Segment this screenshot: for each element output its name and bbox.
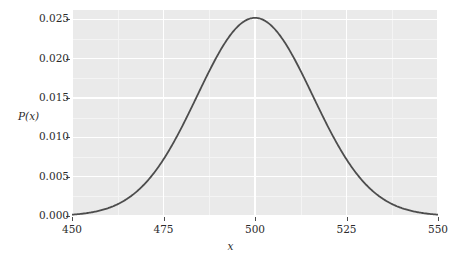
x-axis-tick bbox=[438, 217, 439, 221]
y-axis-tick-label: 0.025 bbox=[23, 12, 69, 24]
x-axis-tick-label: 500 bbox=[233, 223, 277, 235]
x-axis-label: x bbox=[0, 240, 461, 252]
y-axis-tick-label: 0.005 bbox=[23, 170, 69, 182]
gaussian-curve bbox=[72, 10, 438, 216]
x-axis-tick bbox=[72, 217, 73, 221]
x-axis-tick bbox=[347, 217, 348, 221]
y-axis-tick-label: 0.020 bbox=[23, 52, 69, 64]
y-axis-tick-label: 0.015 bbox=[23, 91, 69, 103]
y-axis-label: P(x) bbox=[18, 110, 39, 122]
x-axis-tick-label: 475 bbox=[142, 223, 186, 235]
plot-panel bbox=[72, 10, 438, 216]
chart-figure: 4504755005255500.0250.0200.0150.0100.005… bbox=[0, 0, 461, 262]
x-axis-tick bbox=[255, 217, 256, 221]
y-axis-tick-label: 0.000 bbox=[23, 209, 69, 221]
curve-path bbox=[72, 18, 438, 215]
x-axis-tick bbox=[164, 217, 165, 221]
y-axis-tick-label: 0.010 bbox=[23, 130, 69, 142]
x-axis-tick-label: 525 bbox=[325, 223, 369, 235]
x-axis-tick-label: 450 bbox=[50, 223, 94, 235]
x-axis-tick-label: 550 bbox=[416, 223, 460, 235]
